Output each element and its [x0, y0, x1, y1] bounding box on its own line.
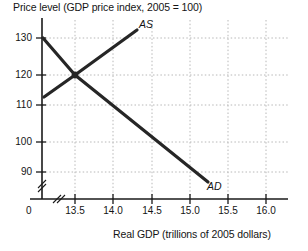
horizontal-gridlines: [42, 38, 288, 172]
as-curve-label: AS: [139, 18, 153, 30]
y-tick-label-130: 130: [2, 32, 32, 43]
y-axis-ticks: [36, 38, 46, 172]
ad-curve: [43, 38, 208, 182]
y-tick-label-90: 90: [2, 166, 32, 177]
x-tick-label-16-0: 16.0: [249, 205, 283, 216]
x-tick-label-14-5: 14.5: [135, 205, 169, 216]
y-tick-label-100: 100: [2, 136, 32, 147]
x-tick-label-13-5: 13.5: [58, 205, 92, 216]
x-tick-label-14-0: 14.0: [96, 205, 130, 216]
y-tick-label-110: 110: [2, 99, 32, 110]
equilibrium-point: [72, 72, 79, 79]
y-tick-label-120: 120: [2, 69, 32, 80]
x-axis-title: Real GDP (trillions of 2005 dollars): [113, 228, 271, 240]
x-tick-label-15-0: 15.0: [173, 205, 207, 216]
vertical-gridlines: [75, 20, 266, 199]
x-tick-label-15-5: 15.5: [211, 205, 245, 216]
economics-figure: Price level (GDP price index, 2005 = 100…: [0, 0, 308, 251]
ad-curve-label: AD: [207, 180, 222, 192]
origin-label: 0: [26, 205, 32, 216]
